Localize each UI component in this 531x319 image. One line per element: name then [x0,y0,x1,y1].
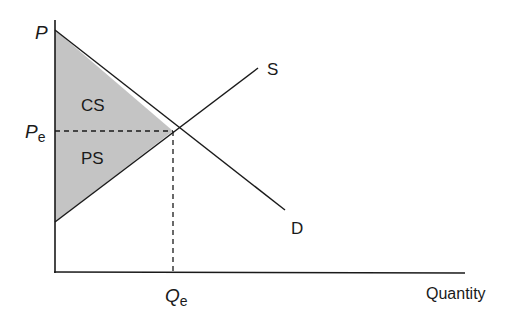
producer-surplus-label: PS [81,149,104,168]
supply-label: S [267,60,278,79]
price-equilibrium-label: Pe [25,121,46,145]
x-axis [54,272,465,273]
supply-demand-diagram: P Pe CS PS S D Qe Quantity [0,0,531,319]
quantity-equilibrium-label: Qe [165,285,188,309]
consumer-surplus-area [55,30,173,131]
y-axis-label: P [35,22,48,43]
consumer-surplus-label: CS [81,96,105,115]
x-axis-label: Quantity [426,285,486,302]
demand-label: D [291,219,303,238]
